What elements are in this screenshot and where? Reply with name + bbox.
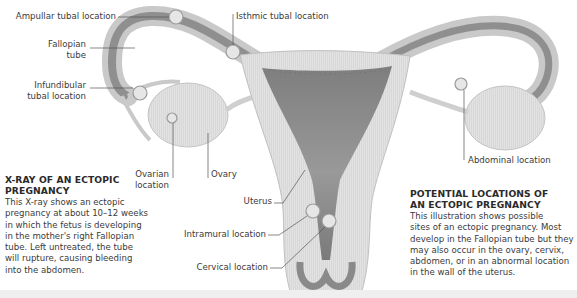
intramural-site — [306, 204, 320, 218]
left-ovary — [148, 83, 228, 147]
right-ovary — [465, 86, 545, 150]
label-intramural: Intramural location — [180, 229, 266, 240]
locations-caption-body: This illustration shows possible sites o… — [410, 211, 574, 279]
abdominal-site — [455, 78, 467, 90]
label-ampullar: Ampullar tubal location — [8, 11, 116, 22]
locations-caption-title-2: AN ECTOPIC PREGNANCY — [410, 199, 541, 210]
ampullar-site — [169, 10, 183, 24]
label-infundibular-2: tubal location — [10, 91, 86, 102]
isthmic-site — [226, 45, 240, 59]
label-infundibular-1: Infundibular — [10, 80, 86, 91]
ovarian-site — [167, 113, 177, 123]
label-ovarian-2: location — [128, 180, 169, 191]
infundibular-site — [133, 86, 147, 100]
xray-caption-title-2: PREGNANCY — [5, 185, 69, 196]
xray-caption-title-1: X-RAY OF AN ECTOPIC — [5, 174, 119, 185]
label-ovarian-1: Ovarian — [128, 169, 169, 180]
locations-caption-title-1: POTENTIAL LOCATIONS OF — [410, 188, 548, 199]
cervical-site — [322, 214, 336, 228]
label-fallopian-2: tube — [10, 50, 86, 61]
label-cervical: Cervical location — [180, 262, 268, 273]
bottom-strip — [0, 290, 577, 298]
label-isthmic: Isthmic tubal location — [236, 11, 329, 22]
label-fallopian-1: Fallopian — [10, 39, 86, 50]
xray-caption-body: This X-ray shows an ectopic pregnancy at… — [5, 197, 148, 276]
label-abdominal: Abdominal location — [468, 155, 551, 166]
label-uterus: Uterus — [200, 196, 272, 207]
label-ovary: Ovary — [211, 169, 237, 180]
